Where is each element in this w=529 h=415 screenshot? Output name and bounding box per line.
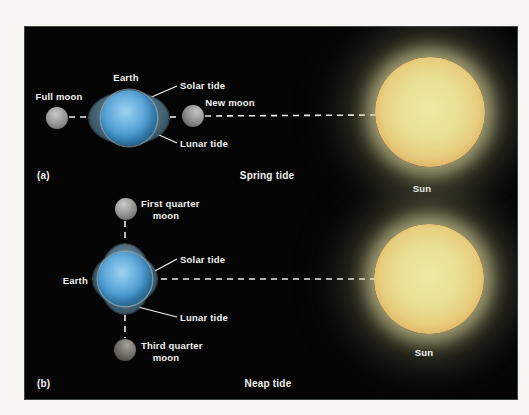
full-moon-label: Full moon bbox=[35, 91, 82, 102]
title-spring-tide: Spring tide bbox=[240, 170, 294, 181]
caption-a: (a) bbox=[37, 170, 50, 181]
new-moon-label: New moon bbox=[205, 97, 255, 108]
alignment-dash-a-right bbox=[205, 115, 376, 116]
lunar-tide-label-a: Lunar tide bbox=[180, 138, 228, 149]
lunar-tide-label-b: Lunar tide bbox=[180, 312, 228, 323]
caption-b: (b) bbox=[37, 378, 50, 389]
solar-tide-label-b: Solar tide bbox=[180, 254, 225, 265]
earth-label-b: Earth bbox=[43, 275, 88, 286]
third-quarter-moon-label-line2: moon bbox=[153, 352, 180, 363]
sun-a bbox=[375, 57, 485, 167]
sun-b bbox=[374, 224, 484, 334]
first-quarter-moon-label-line1: First quarter bbox=[141, 198, 200, 209]
solar-tide-leader-b bbox=[153, 259, 177, 272]
full-moon bbox=[46, 107, 68, 129]
sun-label-b: Sun bbox=[415, 347, 434, 358]
lunar-tide-leader-b bbox=[138, 307, 177, 317]
page-background: Earth Full moon New moon Solar tide Luna… bbox=[0, 0, 529, 415]
third-quarter-moon-label-line1: Third quarter bbox=[141, 340, 203, 351]
solar-tide-label-a: Solar tide bbox=[180, 80, 225, 91]
tides-figure-panel: Earth Full moon New moon Solar tide Luna… bbox=[24, 26, 518, 400]
title-neap-tide: Neap tide bbox=[245, 378, 292, 389]
new-moon bbox=[182, 105, 204, 127]
third-quarter-moon bbox=[114, 339, 136, 361]
earth-label-a: Earth bbox=[113, 72, 138, 83]
first-quarter-moon bbox=[115, 198, 137, 220]
sun-label-a: Sun bbox=[413, 183, 432, 194]
first-quarter-moon-label-line2: moon bbox=[153, 210, 180, 221]
earth-sphere-a bbox=[101, 90, 157, 146]
earth-sphere-b bbox=[98, 252, 152, 306]
